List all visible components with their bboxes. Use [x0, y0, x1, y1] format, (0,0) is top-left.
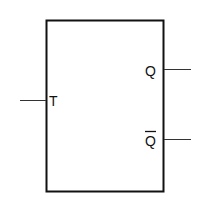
flip-flop-body	[47, 21, 164, 192]
output-label-q-bar: Q	[145, 133, 156, 149]
t-flip-flop-diagram: T Q Q	[0, 0, 206, 206]
output-label-q: Q	[145, 63, 156, 79]
input-label-t: T	[49, 93, 58, 109]
